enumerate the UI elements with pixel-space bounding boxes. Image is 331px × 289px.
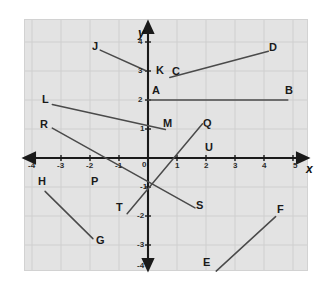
coordinate-plane-figure: x y -4 -3 -2 -1 0 1 2 3 4 5 4 3 2 1 -1 -… — [0, 0, 331, 289]
axis-lines — [24, 22, 308, 270]
x-tick-4: 4 — [262, 162, 266, 170]
segment-C-D — [170, 51, 269, 77]
point-label-F: F — [277, 204, 284, 215]
y-tick-4: 4 — [138, 38, 142, 46]
point-label-D: D — [269, 42, 277, 53]
x-tick-2: 2 — [204, 162, 208, 170]
grid-lines — [25, 20, 307, 270]
plot-vector-layer — [0, 0, 331, 289]
point-label-J: J — [92, 41, 98, 52]
point-label-L: L — [42, 94, 49, 105]
point-label-U: U — [205, 142, 213, 153]
point-label-C: C — [172, 66, 180, 77]
x-tick-neg2: -2 — [86, 162, 93, 170]
point-label-E: E — [203, 257, 210, 268]
point-label-Q: Q — [203, 118, 212, 129]
x-tick-1: 1 — [175, 162, 179, 170]
point-label-T: T — [116, 202, 123, 213]
point-label-G: G — [96, 235, 105, 246]
y-tick-neg3: -3 — [137, 241, 144, 249]
x-tick-neg3: -3 — [57, 162, 64, 170]
point-label-M: M — [163, 118, 172, 129]
point-label-R: R — [40, 119, 48, 130]
y-tick-1: 1 — [140, 125, 144, 133]
x-tick-neg1: -1 — [115, 162, 122, 170]
segment-E-F — [216, 217, 275, 272]
x-tick-zero: 0 — [142, 161, 146, 169]
y-tick-2: 2 — [138, 96, 142, 104]
point-label-P: P — [91, 176, 98, 187]
point-label-A: A — [152, 85, 160, 96]
segment-H-G — [45, 191, 93, 238]
x-tick-5: 5 — [293, 162, 297, 170]
x-axis-label: x — [306, 163, 313, 175]
y-tick-neg4: -4 — [137, 262, 144, 270]
point-label-K: K — [156, 65, 164, 76]
x-tick-neg4: -4 — [28, 162, 35, 170]
y-tick-neg1: -1 — [140, 183, 147, 191]
point-label-H: H — [38, 176, 46, 187]
x-tick-3: 3 — [233, 162, 237, 170]
y-axis-arrow-down — [143, 259, 153, 270]
y-tick-3: 3 — [138, 67, 142, 75]
point-label-S: S — [196, 200, 203, 211]
y-tick-neg2: -2 — [137, 212, 144, 220]
plotted-segments — [45, 50, 288, 271]
segment-R-S — [52, 128, 195, 208]
segment-T-Q — [127, 124, 202, 214]
point-label-B: B — [285, 85, 293, 96]
